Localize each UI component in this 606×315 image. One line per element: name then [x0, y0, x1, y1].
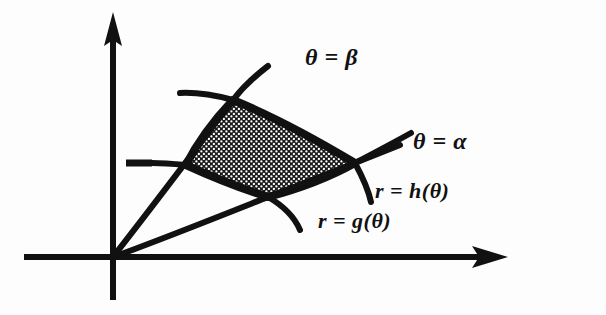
figure-canvas	[0, 0, 606, 315]
label-r-g: r = g(θ)	[318, 208, 391, 234]
label-r-h: r = h(θ)	[375, 178, 449, 204]
label-theta-alpha: θ = α	[413, 128, 467, 155]
curve-r-h-extension	[355, 133, 411, 163]
polar-region-figure: θ = β θ = α r = h(θ) r = g(θ)	[0, 0, 606, 315]
horizontal-axis	[24, 246, 508, 268]
label-theta-beta: θ = β	[305, 44, 358, 71]
